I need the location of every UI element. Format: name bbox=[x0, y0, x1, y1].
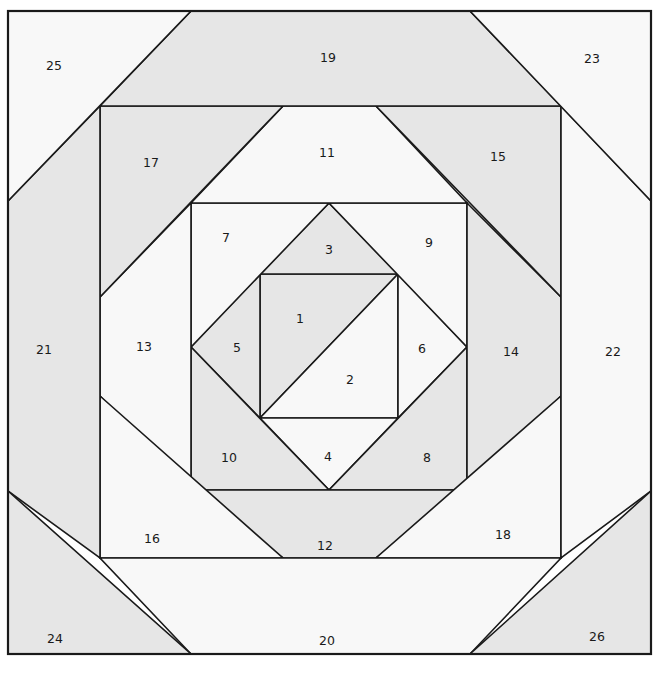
patch-label-3: 3 bbox=[325, 242, 333, 257]
patch-label-6: 6 bbox=[418, 341, 426, 356]
patch-label-18: 18 bbox=[495, 527, 511, 542]
patch-label-15: 15 bbox=[490, 149, 506, 164]
patch-label-17: 17 bbox=[143, 155, 159, 170]
patch-label-19: 19 bbox=[320, 50, 336, 65]
patch-label-12: 12 bbox=[317, 538, 333, 553]
patch-label-4: 4 bbox=[324, 449, 332, 464]
patch-label-13: 13 bbox=[136, 339, 152, 354]
patch-label-7: 7 bbox=[222, 230, 230, 245]
patch-label-22: 22 bbox=[605, 344, 621, 359]
patch-label-20: 20 bbox=[319, 633, 335, 648]
patch-layer bbox=[8, 11, 651, 654]
patch-label-10: 10 bbox=[221, 450, 237, 465]
patch-label-23: 23 bbox=[584, 51, 600, 66]
patch-label-24: 24 bbox=[47, 631, 63, 646]
patch-label-8: 8 bbox=[423, 450, 431, 465]
patch-label-1: 1 bbox=[296, 311, 304, 326]
patch-label-26: 26 bbox=[589, 629, 605, 644]
patch-label-5: 5 bbox=[233, 340, 241, 355]
patch-label-14: 14 bbox=[503, 344, 519, 359]
patch-label-2: 2 bbox=[346, 372, 354, 387]
patch-label-11: 11 bbox=[319, 145, 335, 160]
patch-label-25: 25 bbox=[46, 58, 62, 73]
patch-label-9: 9 bbox=[425, 235, 433, 250]
patch-label-21: 21 bbox=[36, 342, 52, 357]
patch-label-16: 16 bbox=[144, 531, 160, 546]
quilt-block-diagram: 1234567891011121314151617181920212223242… bbox=[0, 0, 656, 691]
